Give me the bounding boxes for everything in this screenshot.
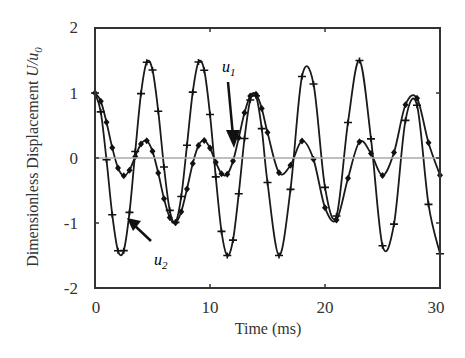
plus-marker bbox=[154, 108, 162, 114]
diamond-marker bbox=[184, 185, 190, 192]
plus-marker bbox=[143, 59, 151, 65]
plus-marker bbox=[206, 111, 214, 117]
plus-marker bbox=[425, 201, 433, 207]
plus-marker bbox=[258, 126, 266, 132]
plus-marker bbox=[321, 184, 329, 190]
plus-marker bbox=[367, 136, 375, 142]
u1-label: u1 bbox=[222, 58, 236, 78]
diamond-marker bbox=[426, 139, 432, 146]
diamond-marker bbox=[311, 156, 317, 163]
x-axis-label: Time (ms) bbox=[235, 320, 302, 338]
x-tick-10: 10 bbox=[202, 298, 219, 317]
x-tick-20: 20 bbox=[317, 298, 334, 317]
plus-marker bbox=[195, 59, 203, 65]
annotation-u2: u2 bbox=[127, 218, 168, 271]
plus-marker bbox=[218, 228, 226, 234]
plus-marker bbox=[149, 67, 157, 73]
y-tick-2: 2 bbox=[70, 18, 79, 37]
y-tick-0: 0 bbox=[70, 149, 79, 168]
plus-marker bbox=[189, 89, 197, 95]
plus-marker bbox=[212, 174, 220, 180]
diamond-marker bbox=[161, 195, 167, 202]
plus-marker bbox=[160, 164, 168, 170]
plus-marker bbox=[137, 91, 145, 97]
plus-marker bbox=[183, 142, 191, 148]
diamond-marker bbox=[109, 144, 115, 151]
annotation-u1: u1 bbox=[222, 58, 240, 148]
plus-marker bbox=[298, 73, 306, 79]
diamond-marker bbox=[322, 204, 328, 211]
y-axis-label-subscript: 0 bbox=[32, 47, 44, 53]
plus-marker bbox=[200, 67, 208, 73]
diamond-marker bbox=[115, 164, 121, 171]
diamond-marker bbox=[190, 160, 196, 167]
plus-marker bbox=[379, 243, 387, 249]
y-axis-label-symbol: U/u bbox=[24, 53, 41, 77]
diamond-marker bbox=[150, 148, 156, 155]
u1-arrow-line bbox=[228, 82, 233, 136]
y-tick-1: 1 bbox=[70, 84, 79, 103]
plus-marker bbox=[390, 221, 398, 227]
diamond-marker bbox=[242, 109, 248, 116]
plus-marker bbox=[229, 237, 237, 243]
plus-marker bbox=[310, 81, 318, 87]
diamond-marker bbox=[265, 129, 271, 136]
u2-label: u2 bbox=[154, 251, 168, 271]
plus-marker bbox=[108, 212, 116, 218]
diamond-marker bbox=[155, 170, 161, 177]
plus-marker bbox=[264, 179, 272, 185]
y-axis-label-text: Dimensionless Displacement bbox=[24, 77, 42, 267]
diamond-marker bbox=[104, 119, 110, 126]
y-axis-label: Dimensionless Displacement U/u0 bbox=[24, 47, 44, 267]
plus-marker bbox=[241, 136, 249, 142]
plus-marker bbox=[120, 248, 128, 254]
diamond-marker bbox=[391, 149, 397, 156]
x-tick-0: 0 bbox=[92, 298, 101, 317]
plus-marker bbox=[275, 253, 283, 259]
displacement-chart: 2 1 0 -1 -2 0 10 20 30 Time (ms) Dimensi… bbox=[0, 0, 465, 358]
plus-marker bbox=[235, 191, 243, 197]
x-tick-30: 30 bbox=[428, 298, 445, 317]
y-tick-neg1: -1 bbox=[64, 214, 78, 233]
plus-marker bbox=[287, 186, 295, 192]
plus-marker bbox=[126, 209, 134, 215]
y-tick-neg2: -2 bbox=[64, 279, 78, 298]
diamond-marker bbox=[345, 175, 351, 182]
plus-marker bbox=[344, 119, 352, 125]
